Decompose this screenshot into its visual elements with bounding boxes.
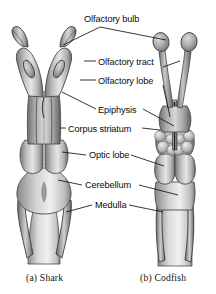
codfish-brain <box>151 31 198 266</box>
caption-shark: (a) Shark <box>26 272 63 283</box>
codfish-optic-lobe-left <box>155 153 175 184</box>
shark-medulla <box>28 206 60 264</box>
label-olfactory-tract: Olfactory tract <box>98 57 154 67</box>
codfish-olfactory-bulb-left <box>151 31 170 52</box>
leader-corpus-striatum-right <box>142 128 160 130</box>
label-medulla: Medulla <box>95 200 126 210</box>
codfish-olfactory-lobe <box>159 106 191 132</box>
brain-diagram-illustration <box>0 0 216 294</box>
label-cerebellum: Cerebellum <box>85 180 131 190</box>
label-olfactory-lobe: Olfactory lobe <box>98 76 153 86</box>
leader-olfactory-bulb-right <box>100 27 166 40</box>
codfish-olfactory-bulb-right <box>179 31 198 52</box>
codfish-optic-lobe-right <box>175 153 195 184</box>
codfish-olfactory-tract-right <box>177 50 191 108</box>
label-epiphysis: Epiphysis <box>98 105 136 115</box>
shark-optic-lobe-right <box>45 140 68 173</box>
caption-codfish: (b) Codfish <box>140 272 186 283</box>
label-optic-lobe: Optic lobe <box>89 150 129 160</box>
shark-brain <box>12 27 76 264</box>
anatomy-figure: Olfactory bulb Olfactory tract Olfactory… <box>0 0 216 294</box>
shark-olfactory-bulb-right <box>60 27 76 47</box>
codfish-cerebellum <box>155 182 195 210</box>
label-corpus-striatum: Corpus striatum <box>68 124 131 134</box>
label-olfactory-bulb: Olfactory bulb <box>84 14 139 24</box>
shark-olfactory-bulb-left <box>12 27 28 47</box>
shark-optic-lobe-left <box>20 140 43 173</box>
leader-epiphysis-left <box>62 92 96 109</box>
